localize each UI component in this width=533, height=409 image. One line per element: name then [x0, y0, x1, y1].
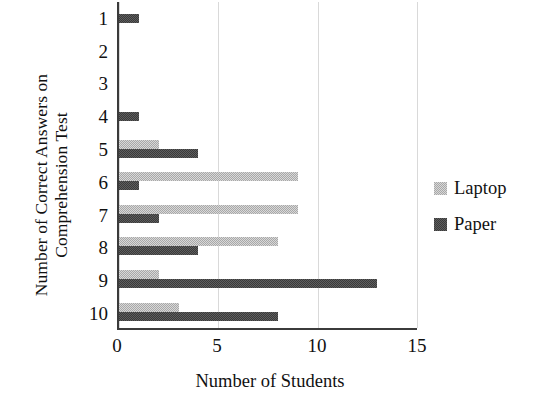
legend-item-paper[interactable]: Paper — [434, 206, 533, 242]
bar-rows — [119, 2, 417, 328]
bar-group — [119, 263, 417, 296]
bar-paper-10 — [119, 312, 278, 321]
y-axis-tick: 4 — [62, 100, 112, 133]
bar-paper-9 — [119, 279, 377, 288]
bar-group — [119, 295, 417, 328]
bar-group — [119, 165, 417, 198]
bar-group — [119, 198, 417, 231]
y-axis-tick-labels: 1 2 3 4 5 6 7 8 9 10 — [62, 2, 112, 330]
y-axis-tick: 10 — [62, 297, 112, 330]
bar-paper-8 — [119, 246, 198, 255]
bar-laptop-6 — [119, 172, 298, 181]
bar-laptop-9 — [119, 270, 159, 279]
bar-group — [119, 100, 417, 133]
x-axis-tick: 5 — [212, 336, 222, 355]
bar-laptop-10 — [119, 303, 179, 312]
bar-paper-4 — [119, 112, 139, 121]
bar-laptop-8 — [119, 237, 278, 246]
x-axis-tick: 10 — [308, 336, 327, 355]
bar-paper-1 — [119, 14, 139, 23]
legend-item-laptop[interactable]: Laptop — [434, 170, 533, 206]
bar-group — [119, 67, 417, 100]
legend-label: Paper — [454, 215, 496, 234]
y-axis-tick: 6 — [62, 166, 112, 199]
y-axis-tick: 1 — [62, 2, 112, 35]
y-axis-tick: 8 — [62, 232, 112, 265]
bar-group — [119, 35, 417, 68]
bar-paper-6 — [119, 181, 139, 190]
y-axis-tick: 3 — [62, 68, 112, 101]
bar-group — [119, 2, 417, 35]
y-axis-tick: 7 — [62, 199, 112, 232]
x-axis-tick: 15 — [408, 336, 427, 355]
x-axis-tick: 0 — [112, 336, 122, 355]
bar-laptop-5 — [119, 140, 159, 149]
x-axis-tick-labels: 051015 — [117, 336, 417, 362]
legend-label: Laptop — [454, 179, 506, 198]
chart-legend: LaptopPaper — [434, 170, 533, 242]
bar-chart-figure: Number of Correct Answers on Comprehensi… — [0, 0, 533, 409]
y-axis-tick: 5 — [62, 133, 112, 166]
y-axis-tick: 2 — [62, 35, 112, 68]
bar-group — [119, 132, 417, 165]
bar-paper-7 — [119, 214, 159, 223]
plot-area — [117, 2, 417, 330]
bar-group — [119, 230, 417, 263]
bar-laptop-7 — [119, 205, 298, 214]
x-axis-title: Number of Students — [80, 372, 460, 391]
bar-paper-5 — [119, 149, 198, 158]
legend-swatch-icon — [434, 182, 447, 195]
legend-swatch-icon — [434, 218, 447, 231]
y-axis-tick: 9 — [62, 264, 112, 297]
gridline — [417, 2, 418, 328]
